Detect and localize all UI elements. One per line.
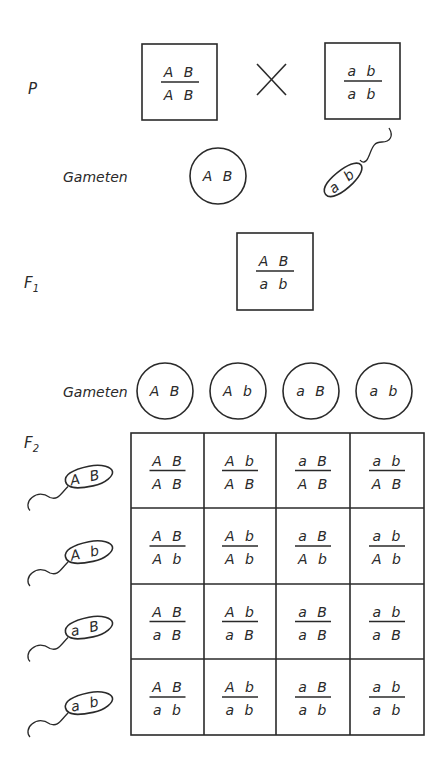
genotype-bottom: A b (224, 551, 257, 567)
genotype-bottom: a b (373, 702, 404, 718)
sperm-tail (28, 487, 68, 511)
genotype-top: A b (224, 679, 257, 695)
punnett-cell: A bA b (222, 528, 258, 567)
punnett-cell: a ba b (369, 679, 405, 718)
egg-genotype: A B (149, 383, 183, 399)
sperm-gametes-column: A BA ba Ba b (28, 462, 115, 737)
genotype-top: A b (224, 528, 257, 544)
punnett-cell: A ba B (222, 604, 258, 643)
genotype-bottom: a b (226, 702, 257, 718)
genotype-top: a b (373, 528, 404, 544)
genotype-bottom: a b (153, 702, 184, 718)
genotype-top: A B (151, 528, 185, 544)
genotype-top: A B (258, 253, 292, 269)
genotype-top: a b (373, 679, 404, 695)
genotype-top: a b (373, 453, 404, 469)
generation-label-p: P (28, 80, 38, 98)
genotype-top: A B (151, 679, 185, 695)
gametes-label-f1: Gameten (63, 384, 128, 400)
punnett-cell: a Ba b (295, 679, 331, 718)
punnett-cell: a bA b (369, 528, 405, 567)
punnett-cell: a BA B (295, 453, 331, 492)
genotype-bottom: A B (163, 87, 197, 103)
egg-gamete: a b (356, 363, 412, 419)
sperm-cell: a b (320, 128, 392, 202)
egg-genotype: A B (202, 168, 236, 184)
parent-genotype-box-2: a b a b (325, 43, 400, 119)
genotype-bottom: A b (297, 551, 330, 567)
genotype-bottom: a B (298, 627, 330, 643)
punnett-cell: a ba B (369, 604, 405, 643)
genotype-bottom: A b (152, 551, 185, 567)
egg-genotype: a b (370, 383, 401, 399)
punnett-cell: A ba b (222, 679, 258, 718)
parent-genotype-box-1: A B A B (142, 44, 217, 120)
genotype-top: A B (163, 64, 197, 80)
genotype-top: A b (224, 604, 257, 620)
egg-genotype: a B (296, 383, 328, 399)
genotype-top: a B (298, 604, 330, 620)
genotype-top: A B (151, 604, 185, 620)
punnett-cell: a Ba B (295, 604, 331, 643)
genotype-top: A b (224, 453, 257, 469)
cross-symbol (257, 64, 286, 95)
punnett-cell: a bA B (369, 453, 405, 492)
genetics-diagram: P F1 F2 A B A B a b a b Gameten A B a b … (0, 0, 446, 784)
sperm-gamete: a b (28, 688, 115, 737)
genotype-top: a b (373, 604, 404, 620)
punnett-cell: a BA b (295, 528, 331, 567)
sperm-gamete: A B (28, 462, 115, 511)
punnett-cell: A bA B (222, 453, 258, 492)
genotype-bottom: A B (297, 476, 331, 492)
genotype-bottom: a B (372, 627, 404, 643)
punnett-cell: A BA b (150, 528, 186, 567)
genotype-bottom: A B (151, 476, 185, 492)
egg-gamete: A B (137, 363, 193, 419)
sperm-gamete: a B (28, 613, 115, 662)
f1-genotype-box: A B a b (237, 233, 313, 310)
sperm-tail (28, 562, 68, 586)
genotype-top: a B (298, 453, 330, 469)
egg-gamete: a B (283, 363, 339, 419)
generation-label-f2: F2 (24, 434, 39, 454)
genotype-bottom: a b (260, 276, 291, 292)
egg-cell: A B (190, 148, 246, 204)
punnett-cell: A Ba B (150, 604, 186, 643)
egg-genotype: A b (222, 383, 255, 399)
egg-gamete: A b (210, 363, 266, 419)
punnett-cell: A Ba b (150, 679, 186, 718)
punnett-square: A BA BA bA Ba BA Ba bA BA BA bA bA ba BA… (131, 433, 424, 735)
genotype-top: a b (348, 63, 379, 79)
sperm-tail (360, 128, 391, 162)
genotype-top: a B (298, 679, 330, 695)
genotype-bottom: A B (371, 476, 405, 492)
genotype-top: a B (298, 528, 330, 544)
genotype-bottom: a b (348, 86, 379, 102)
egg-gametes-row: A BA ba Ba b (137, 363, 412, 419)
genotype-top: A B (151, 453, 185, 469)
sperm-tail (28, 713, 68, 737)
punnett-cell: A BA B (150, 453, 186, 492)
gametes-label: Gameten (63, 169, 128, 185)
generation-label-f1: F1 (24, 274, 39, 294)
sperm-tail (28, 638, 68, 662)
genotype-bottom: a B (153, 627, 185, 643)
genotype-bottom: a B (225, 627, 257, 643)
genotype-bottom: A b (371, 551, 404, 567)
sperm-gamete: A b (28, 537, 115, 586)
genotype-bottom: a b (299, 702, 330, 718)
genotype-bottom: A B (224, 476, 258, 492)
